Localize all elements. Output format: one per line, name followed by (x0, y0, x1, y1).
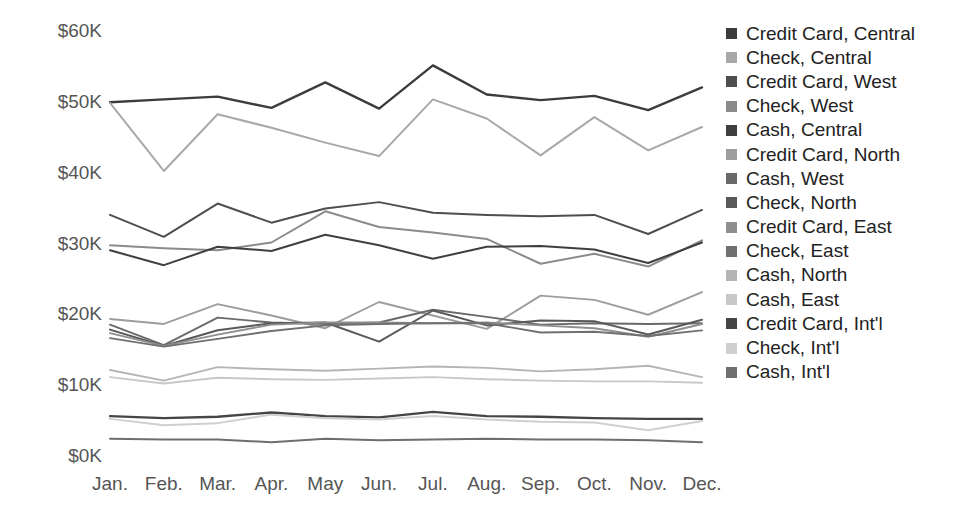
legend-swatch-icon (726, 101, 737, 112)
legend-swatch-icon (726, 76, 737, 87)
series-line (110, 310, 702, 345)
legend-item-label: Credit Card, North (746, 145, 900, 164)
chart-legend: Credit Card, CentralCheck, CentralCredit… (726, 21, 976, 384)
legend-swatch-icon (726, 173, 737, 184)
legend-item[interactable]: Cash, West (726, 166, 976, 190)
legend-item[interactable]: Cash, East (726, 287, 976, 311)
legend-swatch-icon (726, 343, 737, 354)
legend-item[interactable]: Cash, Central (726, 118, 976, 142)
legend-item[interactable]: Check, West (726, 94, 976, 118)
y-axis-tick-label: $10K (6, 375, 102, 394)
plot-canvas (0, 0, 720, 510)
legend-item[interactable]: Cash, Int'l (726, 360, 976, 384)
y-axis-tick-label: $60K (6, 21, 102, 40)
legend-item-label: Check, North (746, 193, 857, 212)
chart-page: $0K$10K$20K$30K$40K$50K$60K Jan.Feb.Mar.… (0, 0, 976, 510)
x-axis-tick-label: Dec. (667, 474, 737, 493)
legend-item-label: Cash, Int'l (746, 362, 830, 381)
legend-item[interactable]: Check, North (726, 190, 976, 214)
legend-swatch-icon (726, 52, 737, 63)
y-axis-tick-label: $50K (6, 92, 102, 111)
line-chart (0, 0, 720, 510)
legend-item-label: Credit Card, East (746, 217, 892, 236)
legend-item[interactable]: Credit Card, West (726, 69, 976, 93)
legend-swatch-icon (726, 197, 737, 208)
legend-item-label: Cash, East (746, 290, 839, 309)
legend-item[interactable]: Credit Card, Central (726, 21, 976, 45)
legend-swatch-icon (726, 318, 737, 329)
legend-item[interactable]: Credit Card, Int'l (726, 311, 976, 335)
legend-item-label: Cash, West (746, 169, 844, 188)
legend-item-label: Check, Int'l (746, 338, 839, 357)
legend-item[interactable]: Credit Card, East (726, 215, 976, 239)
legend-swatch-icon (726, 222, 737, 233)
legend-item[interactable]: Credit Card, North (726, 142, 976, 166)
legend-item[interactable]: Check, East (726, 239, 976, 263)
legend-swatch-icon (726, 149, 737, 160)
legend-swatch-icon (726, 246, 737, 257)
series-line (110, 99, 702, 171)
legend-item-label: Check, West (746, 96, 853, 115)
y-axis-tick-label: $0K (6, 446, 102, 465)
x-axis: Jan.Feb.Mar.Apr.MayJun.Jul.Aug.Sep.Oct.N… (0, 474, 720, 504)
legend-swatch-icon (726, 270, 737, 281)
legend-item-label: Credit Card, Int'l (746, 314, 883, 333)
legend-swatch-icon (726, 28, 737, 39)
legend-item[interactable]: Cash, North (726, 263, 976, 287)
legend-item-label: Cash, North (746, 265, 847, 284)
series-line (110, 65, 702, 110)
y-axis: $0K$10K$20K$30K$40K$50K$60K (0, 0, 102, 510)
legend-item-label: Credit Card, West (746, 72, 897, 91)
series-line (110, 377, 702, 383)
legend-item-label: Credit Card, Central (746, 24, 915, 43)
series-line (110, 211, 702, 266)
y-axis-tick-label: $40K (6, 163, 102, 182)
legend-item-label: Check, East (746, 241, 848, 260)
series-line (110, 439, 702, 443)
y-axis-tick-label: $30K (6, 234, 102, 253)
legend-swatch-icon (726, 294, 737, 305)
series-line (110, 202, 702, 237)
legend-item-label: Cash, Central (746, 120, 862, 139)
legend-item-label: Check, Central (746, 48, 872, 67)
legend-item[interactable]: Check, Central (726, 45, 976, 69)
legend-swatch-icon (726, 125, 737, 136)
y-axis-tick-label: $20K (6, 304, 102, 323)
legend-item[interactable]: Check, Int'l (726, 335, 976, 359)
legend-swatch-icon (726, 367, 737, 378)
